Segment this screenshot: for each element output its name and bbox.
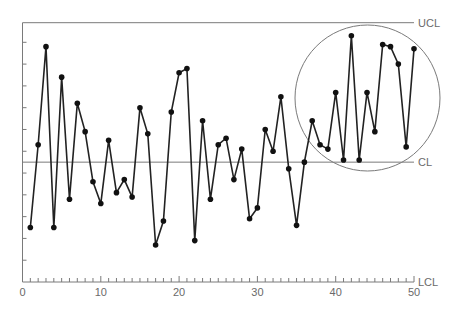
data-point-marker — [286, 166, 292, 172]
limit-labels: UCL CL LCL — [418, 17, 440, 288]
data-point-marker — [75, 101, 81, 107]
data-point-marker — [28, 225, 34, 231]
data-point-marker — [98, 201, 104, 207]
data-point-marker — [349, 33, 355, 39]
data-point-marker — [161, 218, 167, 224]
data-point-marker — [168, 109, 174, 115]
data-point-marker — [43, 44, 49, 50]
data-point-marker — [302, 159, 308, 165]
data-point-marker — [294, 223, 300, 229]
data-point-marker — [403, 144, 409, 150]
data-series — [28, 33, 417, 248]
data-point-marker — [90, 179, 96, 185]
data-point-marker — [176, 70, 182, 76]
data-point-marker — [82, 129, 88, 135]
data-point-marker — [184, 66, 190, 72]
data-point-marker — [317, 142, 323, 148]
cl-label: CL — [418, 156, 432, 168]
x-tick-label: 20 — [173, 286, 185, 298]
data-point-marker — [364, 90, 370, 96]
data-point-marker — [231, 177, 237, 183]
x-tick-label: 40 — [330, 286, 342, 298]
data-point-marker — [388, 44, 394, 50]
data-point-marker — [270, 148, 276, 154]
data-point-marker — [153, 242, 159, 248]
data-point-marker — [114, 190, 120, 196]
data-point-marker — [239, 146, 245, 152]
data-point-marker — [59, 74, 65, 80]
data-point-marker — [215, 142, 221, 148]
data-point-marker — [247, 216, 253, 222]
data-point-marker — [411, 46, 417, 52]
data-point-marker — [145, 131, 151, 137]
data-point-marker — [223, 135, 229, 141]
data-point-marker — [129, 194, 135, 200]
data-point-marker — [255, 205, 261, 211]
data-point-marker — [380, 42, 386, 48]
data-point-marker — [137, 105, 143, 111]
ucl-label: UCL — [418, 17, 440, 29]
data-point-marker — [372, 129, 378, 135]
x-tick-label: 0 — [19, 286, 25, 298]
data-point-marker — [208, 196, 214, 202]
data-point-marker — [356, 157, 362, 163]
x-tick-label: 10 — [95, 286, 107, 298]
data-point-marker — [106, 138, 112, 144]
x-tick-label: 30 — [251, 286, 263, 298]
data-point-marker — [121, 177, 127, 183]
data-point-marker — [309, 118, 315, 124]
lcl-label: LCL — [418, 276, 438, 288]
data-point-marker — [396, 61, 402, 67]
data-point-marker — [341, 157, 347, 163]
series-line — [30, 36, 414, 245]
data-point-marker — [200, 118, 206, 124]
data-point-marker — [51, 225, 57, 231]
data-point-marker — [192, 238, 198, 244]
data-point-marker — [333, 90, 339, 96]
chart-canvas: 01020304050 UCL CL LCL — [0, 0, 460, 313]
data-point-marker — [262, 127, 268, 133]
data-point-marker — [325, 146, 331, 152]
control-chart: 01020304050 UCL CL LCL — [0, 0, 460, 313]
data-point-marker — [35, 142, 41, 148]
data-point-marker — [278, 94, 284, 100]
data-point-marker — [67, 196, 73, 202]
